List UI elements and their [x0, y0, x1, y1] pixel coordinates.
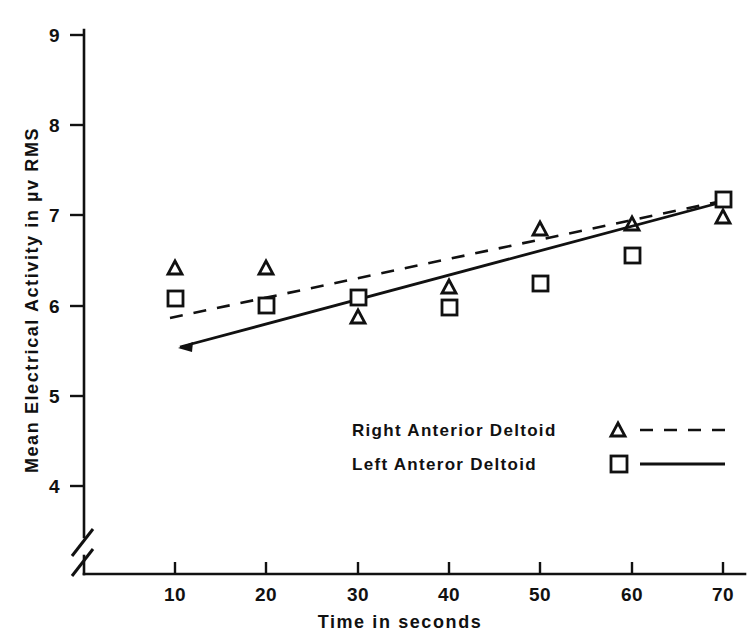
legend-item-left-anteror-deltoid: Left Anteror Deltoid [352, 455, 725, 474]
legend-label: Right Anterior Deltoid [352, 421, 557, 440]
y-tick-label-4: 4 [49, 476, 60, 497]
data-markers-square [168, 192, 731, 315]
data-point [442, 300, 457, 315]
data-point [351, 310, 365, 323]
x-tick-label-30: 30 [347, 584, 369, 605]
chart-legend: Right Anterior Deltoid Left Anteror Delt… [352, 421, 725, 474]
chart-figure: 9 8 7 6 5 4 Mean Electrical Activity in … [0, 0, 753, 640]
x-tick-label-70: 70 [712, 584, 734, 605]
data-point [259, 298, 274, 313]
x-axis: 10 20 30 40 50 60 70 Time in seconds [84, 562, 745, 632]
data-point [442, 280, 456, 293]
x-tick-label-20: 20 [255, 584, 277, 605]
axis-break-icon [72, 529, 93, 576]
data-point [168, 261, 182, 274]
data-point [259, 261, 273, 274]
legend-label: Left Anteror Deltoid [352, 455, 537, 474]
x-tick-label-60: 60 [621, 584, 643, 605]
y-tick-label-7: 7 [49, 205, 60, 226]
data-point [533, 276, 548, 291]
y-tick-label-6: 6 [49, 296, 60, 317]
data-point [351, 290, 366, 305]
data-point [716, 210, 730, 223]
x-tick-label-50: 50 [529, 584, 551, 605]
x-axis-title: Time in seconds [318, 612, 483, 632]
data-point [716, 192, 731, 207]
y-tick-label-8: 8 [49, 115, 60, 136]
chart-canvas: 9 8 7 6 5 4 Mean Electrical Activity in … [0, 0, 753, 640]
triangle-marker-icon [611, 423, 625, 436]
square-marker-icon [611, 456, 627, 472]
y-axis: 9 8 7 6 5 4 Mean Electrical Activity in … [22, 25, 93, 576]
data-point [168, 291, 183, 306]
y-tick-label-9: 9 [49, 25, 60, 46]
data-point [625, 248, 640, 263]
legend-item-right-anterior-deltoid: Right Anterior Deltoid [352, 421, 725, 440]
x-tick-label-40: 40 [438, 584, 460, 605]
data-point [533, 222, 547, 235]
y-tick-label-5: 5 [49, 386, 60, 407]
x-tick-label-10: 10 [164, 584, 186, 605]
y-axis-title: Mean Electrical Activity in µv RMS [22, 127, 42, 473]
